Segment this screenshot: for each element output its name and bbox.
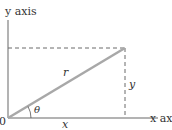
horizontal-leg-label: x [62, 118, 69, 130]
hypotenuse-label: r [63, 66, 69, 79]
angle-label: θ [34, 104, 40, 115]
hypotenuse-r-line [8, 48, 125, 118]
diagram-canvas: y axis x axi 0 r θ x y [0, 0, 172, 130]
origin-label: 0 [0, 115, 6, 128]
vertical-leg-label: y [128, 78, 136, 91]
y-axis-label: y axis [4, 5, 37, 18]
x-axis-label: x axi [150, 112, 172, 125]
angle-theta-arc [28, 107, 31, 119]
